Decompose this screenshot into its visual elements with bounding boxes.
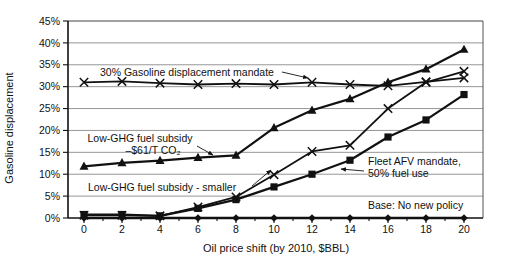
y-tick-label: 45%	[39, 15, 60, 27]
x-tick-label: 16	[382, 223, 394, 235]
label-mandate30-text: 30% Gasoline displacement mandate	[100, 66, 274, 78]
x-tick-label: 18	[420, 223, 432, 235]
label-fleetAfv: Fleet AFV mandate,50% fuel use	[341, 155, 461, 179]
label-base-text: Base: No new policy	[368, 199, 464, 211]
y-tick-label: 15%	[39, 146, 60, 158]
label-subsidySmaller-text: Low-GHG fuel subsidy - smaller	[88, 181, 237, 193]
x-tick-label: 20	[458, 223, 470, 235]
y-tick-label: 0%	[45, 212, 60, 224]
x-tick-label: 14	[344, 223, 356, 235]
y-tick-label: 25%	[39, 102, 60, 114]
label-fleetAfv-text: Fleet AFV mandate,	[368, 155, 461, 167]
x-tick-label: 8	[233, 223, 239, 235]
y-axis-title: Gasoline displacement	[3, 72, 15, 183]
y-tick-label: 20%	[39, 124, 60, 136]
label-base: Base: No new policy	[368, 199, 464, 211]
gasoline-displacement-chart: 0%5%10%15%20%25%30%35%40%45%024681012141…	[0, 0, 506, 266]
y-tick-label: 40%	[39, 37, 60, 49]
x-tick-label: 0	[81, 223, 87, 235]
y-tick-label: 10%	[39, 168, 60, 180]
x-tick-label: 12	[306, 223, 318, 235]
label-subsidySmaller: Low-GHG fuel subsidy - smaller	[88, 170, 271, 193]
label-subsidy61-text: Low-GHG fuel subsidy	[87, 132, 193, 144]
x-tick-label: 4	[157, 223, 163, 235]
x-tick-label: 10	[268, 223, 280, 235]
x-tick-label: 2	[119, 223, 125, 235]
y-tick-label: 30%	[39, 80, 60, 92]
chart-figure: 0%5%10%15%20%25%30%35%40%45%024681012141…	[0, 0, 506, 266]
label-subsidy61-text: –$61/T CO₂	[125, 144, 180, 156]
label-mandate30: 30% Gasoline displacement mandate	[100, 66, 308, 78]
y-tick-label: 35%	[39, 58, 60, 70]
label-fleetAfv-text: 50% fuel use	[368, 167, 429, 179]
y-tick-label: 5%	[45, 190, 60, 202]
x-tick-label: 6	[195, 223, 201, 235]
x-axis-title: Oil price shift (by 2010, $BBL)	[203, 242, 349, 254]
